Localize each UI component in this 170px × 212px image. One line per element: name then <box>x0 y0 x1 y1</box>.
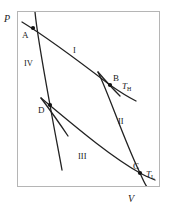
region-label-iv: IV <box>24 59 33 68</box>
point-label-c: C <box>133 162 139 171</box>
y-axis-label: P <box>4 14 10 24</box>
region-label-ii: II <box>118 117 124 126</box>
region-label-i: I <box>73 46 76 55</box>
isotherm-label-th-sub: H <box>127 86 131 92</box>
region-label-iii: III <box>78 152 87 161</box>
isotherm-th-curve <box>22 22 136 101</box>
point-label-b: B <box>113 74 119 83</box>
isotherm-label-tl: TL <box>146 170 155 179</box>
point-marker-c <box>138 171 142 175</box>
adiabat-ad-curve <box>35 12 62 170</box>
isotherm-label-tl-sub: L <box>151 174 155 180</box>
point-marker-d <box>48 103 52 107</box>
point-label-a: A <box>22 31 29 40</box>
isotherm-label-th: TH <box>122 82 131 91</box>
point-marker-b <box>108 83 112 87</box>
x-axis-label: V <box>128 194 134 204</box>
pv-diagram-figure: P V A B C D I II III IV TH TL <box>0 0 170 212</box>
point-marker-a <box>31 26 35 30</box>
point-label-d: D <box>38 106 45 115</box>
